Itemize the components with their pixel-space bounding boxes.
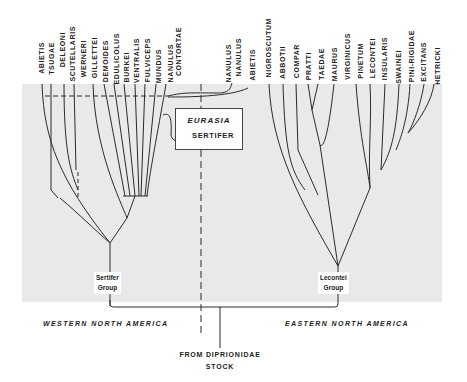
eurasia-species: SERTIFER	[176, 131, 242, 140]
group-line: Sertifer	[96, 273, 119, 283]
origin-label: FROM DIPRIONIDAE STOCK	[170, 349, 270, 373]
group-line: Lecontei	[320, 273, 347, 283]
origin-line: STOCK	[170, 361, 270, 373]
eurasia-title: EURASIA	[176, 116, 242, 125]
origin-line: FROM DIPRIONIDAE	[170, 349, 270, 361]
western-region-label: WESTERN NORTH AMERICA	[40, 319, 171, 328]
group-line: Group	[96, 283, 119, 293]
sertifer-group-label: Sertifer Group	[94, 272, 121, 294]
eurasia-box: EURASIA SERTIFER	[175, 108, 243, 150]
group-line: Group	[320, 283, 347, 293]
eastern-region-label: EASTERN NORTH AMERICA	[282, 319, 412, 328]
lecontei-group-label: Lecontei Group	[318, 272, 349, 294]
